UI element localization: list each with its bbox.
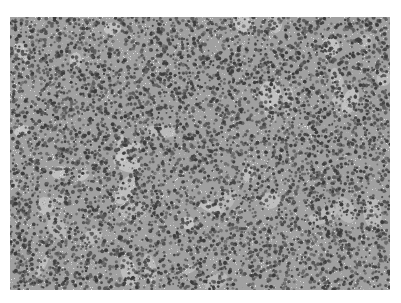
tissue-texture bbox=[10, 17, 390, 290]
micrograph-image bbox=[10, 17, 390, 290]
